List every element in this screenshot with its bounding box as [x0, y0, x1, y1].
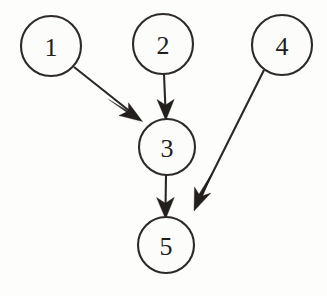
node-1-label: 1 [45, 33, 58, 62]
node-5[interactable]: 5 [138, 217, 194, 273]
edge-1-to-3-line [74, 67, 132, 113]
edge-3-to-5 [157, 175, 175, 219]
directed-graph: 1 2 4 3 5 [0, 0, 327, 296]
node-4[interactable]: 4 [252, 15, 312, 75]
node-3-label: 3 [161, 134, 174, 163]
node-3[interactable]: 3 [139, 119, 195, 175]
edge-2-to-3 [157, 74, 174, 121]
node-1[interactable]: 1 [21, 16, 81, 76]
edge-4-to-5-arrowhead [194, 173, 212, 211]
diagram-canvas: 1 2 4 3 5 [0, 0, 327, 296]
node-2-label: 2 [157, 31, 170, 60]
node-4-label: 4 [276, 32, 289, 61]
edge-1-to-3-arrowhead [109, 99, 143, 121]
node-2[interactable]: 2 [133, 14, 193, 74]
node-5-label: 5 [160, 232, 173, 261]
edge-4-to-5 [194, 70, 264, 211]
edge-1-to-3 [74, 67, 143, 122]
